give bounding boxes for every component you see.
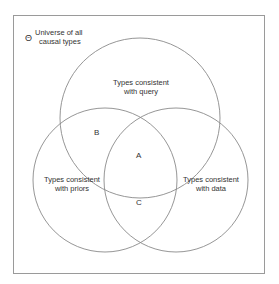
set-label-priors-line2: with priors [41,184,103,193]
region-b-label: B [94,128,99,137]
universe-frame [14,16,265,274]
set-label-query-line2: with query [110,87,172,96]
theta-symbol: Θ [25,33,32,43]
set-label-data-line1: Types consistent [180,175,242,184]
set-label-data: Types consistent with data [180,175,242,193]
region-a-label: A [136,151,141,160]
set-label-query: Types consistent with query [110,78,172,96]
universe-label-line2: causal types [35,37,83,46]
set-label-priors-line1: Types consistent [41,175,103,184]
region-c-label: C [136,198,142,207]
set-label-query-line1: Types consistent [110,78,172,87]
universe-label: Universe of all causal types [35,28,83,46]
set-label-priors: Types consistent with priors [41,175,103,193]
set-label-data-line2: with data [180,184,242,193]
universe-label-line1: Universe of all [35,28,83,37]
